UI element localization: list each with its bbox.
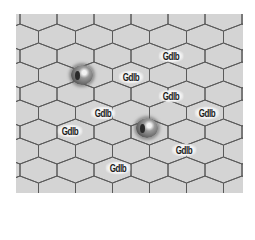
cell-label[interactable]: Gdlb [91,107,116,120]
cell-label-text: Gdlb [163,91,180,102]
cell-label-text: Gdlb [95,108,112,119]
cell-label-text: Gdlb [176,145,193,156]
cell-label[interactable]: Gdlb [106,162,131,175]
cell-label-text: Gdlb [199,108,216,119]
orb-piece-1[interactable] [71,65,93,85]
orb-piece-2[interactable] [136,118,158,138]
cell-label-text: Gdlb [110,163,127,174]
cell-label-text: Gdlb [163,51,180,62]
cell-label[interactable]: Gdlb [195,107,220,120]
cell-label[interactable]: Gdlb [119,71,144,84]
cell-label[interactable]: Gdlb [159,90,184,103]
cell-label-text: Gdlb [123,72,140,83]
cell-label-text: Gdlb [62,126,79,137]
cell-label[interactable]: Gdlb [172,144,197,157]
cell-label[interactable]: Gdlb [159,50,184,63]
cell-label[interactable]: Gdlb [58,125,83,138]
